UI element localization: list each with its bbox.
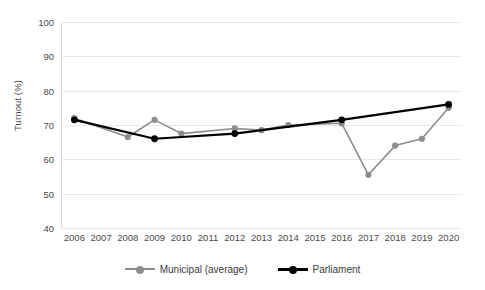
x-tick-label: 2019 xyxy=(409,232,436,248)
series-municipal-average xyxy=(71,105,451,178)
data-point xyxy=(151,117,157,123)
series-layer xyxy=(61,22,462,228)
legend-item[interactable]: Parliament xyxy=(278,264,361,275)
x-tick-label: 2013 xyxy=(248,232,275,248)
x-tick-label: 2017 xyxy=(355,232,382,248)
data-point xyxy=(125,134,131,140)
data-point xyxy=(338,116,345,123)
data-point xyxy=(151,135,158,142)
legend-dot xyxy=(136,266,144,274)
y-tick-label: 100 xyxy=(38,17,54,28)
x-tick-label: 2007 xyxy=(88,232,115,248)
series-line xyxy=(74,104,448,138)
x-tick-label: 2018 xyxy=(382,232,409,248)
x-tick-label: 2015 xyxy=(302,232,329,248)
data-point xyxy=(231,130,238,137)
x-tick-label: 2020 xyxy=(435,232,462,248)
series-line xyxy=(74,108,448,175)
x-tick-label: 2012 xyxy=(221,232,248,248)
data-point xyxy=(445,101,452,108)
y-tick-label: 70 xyxy=(43,120,54,131)
legend-marker-icon xyxy=(278,265,308,275)
gridline xyxy=(61,228,462,229)
x-tick-labels: 2006200720082009201020112012201320142015… xyxy=(61,232,462,248)
y-tick-label: 80 xyxy=(43,85,54,96)
data-point xyxy=(419,136,425,142)
data-point xyxy=(392,143,398,149)
plot-area: 100908070605040 xyxy=(61,22,462,228)
x-tick-label: 2009 xyxy=(141,232,168,248)
y-axis-title: Turnout (%) xyxy=(12,61,23,151)
x-tick-label: 2010 xyxy=(168,232,195,248)
legend-label: Parliament xyxy=(313,264,361,275)
legend-dot xyxy=(289,266,297,274)
legend-label: Municipal (average) xyxy=(160,264,248,275)
chart-legend: Municipal (average)Parliament xyxy=(0,264,485,275)
x-tick-label: 2008 xyxy=(114,232,141,248)
y-tick-label: 40 xyxy=(43,223,54,234)
y-tick-label: 90 xyxy=(43,51,54,62)
legend-marker-icon xyxy=(125,265,155,275)
data-point xyxy=(365,172,371,178)
x-tick-label: 2014 xyxy=(275,232,302,248)
line-chart: Turnout (%) 100908070605040 200620072008… xyxy=(0,0,485,290)
y-tick-label: 50 xyxy=(43,188,54,199)
x-tick-label: 2011 xyxy=(195,232,222,248)
x-tick-label: 2016 xyxy=(328,232,355,248)
x-tick-label: 2006 xyxy=(61,232,88,248)
legend-item[interactable]: Municipal (average) xyxy=(125,264,248,275)
data-point xyxy=(71,116,78,123)
data-point xyxy=(178,130,184,136)
y-tick-label: 60 xyxy=(43,154,54,165)
